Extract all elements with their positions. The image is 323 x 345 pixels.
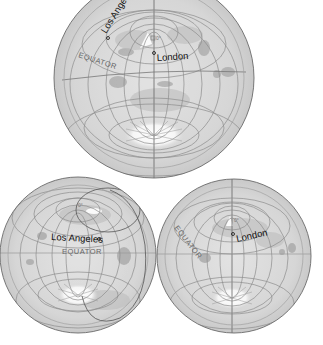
equator-label: EQUATOR <box>62 247 102 256</box>
globe-bottom-left: 0° Los Angeles EQUATOR <box>0 177 156 333</box>
pole-label: 0° <box>78 202 83 208</box>
pole-label: 0° <box>234 217 239 223</box>
city-label-london: London <box>156 50 188 63</box>
pole-label: 0° <box>156 35 161 41</box>
globe-bottom-right: 0° London EQUATOR <box>157 177 311 335</box>
pole-marker: 0° <box>234 217 239 223</box>
globe-projections-figure: 0° Los Angeles London EQUATOR <box>0 0 323 345</box>
globe-top: 0° Los Angeles London EQUATOR <box>54 0 254 178</box>
pole-marker: 0° <box>78 202 83 208</box>
